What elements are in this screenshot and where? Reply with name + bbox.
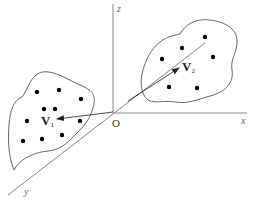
vector-v2-label: V2	[182, 59, 195, 75]
point	[211, 55, 215, 59]
x-axis-label: x	[240, 115, 246, 126]
point	[160, 57, 164, 61]
point	[60, 133, 64, 137]
point	[42, 107, 46, 111]
z-axis-label: z	[116, 3, 121, 14]
vector-v1-label: V1	[41, 113, 54, 129]
y-axis-label: y	[23, 186, 29, 197]
point	[79, 97, 83, 101]
point	[195, 86, 199, 90]
diagram-canvas: z x y O V1 V2	[0, 0, 257, 207]
y-axis	[8, 43, 205, 195]
point	[40, 137, 44, 141]
point	[25, 119, 29, 123]
point	[21, 139, 25, 143]
point	[180, 46, 184, 50]
vector-v1-arrow	[57, 112, 113, 119]
left-cluster-points	[21, 88, 83, 143]
point	[78, 119, 82, 123]
axes	[8, 4, 247, 195]
origin-label: O	[112, 117, 120, 129]
point	[57, 88, 61, 92]
vector-v2-subscript: 2	[191, 67, 195, 75]
point	[35, 90, 39, 94]
vector-v2-arrow	[128, 68, 179, 101]
point	[53, 107, 57, 111]
point	[203, 35, 207, 39]
vector-v1-subscript: 1	[50, 121, 54, 129]
point	[167, 85, 171, 89]
